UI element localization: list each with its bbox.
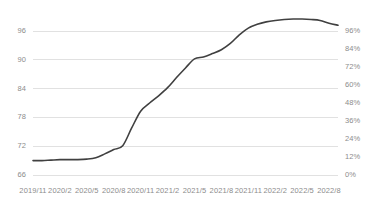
x-axis-tick-label: 2022/8 [317, 186, 341, 195]
y-axis-right-tick-label: 60% [345, 80, 373, 89]
x-axis-tick-label: 2020/11 [127, 186, 154, 195]
y-axis-right-tick-label: 36% [345, 116, 373, 125]
x-axis-tick-label: 2021/5 [183, 186, 207, 195]
x-axis-tick-label: 2022/2 [263, 186, 287, 195]
y-axis-left-tick-label: 96 [4, 26, 26, 35]
data-series-line [33, 19, 338, 161]
y-axis-right-tick-label: 84% [345, 44, 373, 53]
x-axis-tick-label: 2020/2 [48, 186, 72, 195]
y-axis-right-tick-label: 72% [345, 62, 373, 71]
y-axis-left-tick-label: 78 [4, 112, 26, 121]
y-axis-right-tick-label: 24% [345, 134, 373, 143]
x-axis-tick-label: 2021/11 [235, 186, 262, 195]
x-axis-tick-label: 2020/5 [75, 186, 99, 195]
grid-lines [33, 31, 338, 175]
y-axis-left-tick-label: 72 [4, 141, 26, 150]
chart-plot-area [0, 0, 373, 204]
y-axis-right-tick-label: 48% [345, 98, 373, 107]
y-axis-right-tick-label: 12% [345, 152, 373, 161]
y-axis-right-tick-label: 96% [345, 26, 373, 35]
x-axis-tick-label: 2019/11 [19, 186, 46, 195]
x-axis-tick-label: 2020/8 [102, 186, 126, 195]
x-axis-tick-label: 2021/8 [210, 186, 234, 195]
x-axis-tick-label: 2021/2 [156, 186, 180, 195]
y-axis-right-tick-label: 0% [345, 170, 373, 179]
line-chart: 969084787266 96%84%72%60%48%36%24%12%0% … [0, 0, 373, 204]
y-axis-left-tick-label: 66 [4, 170, 26, 179]
x-axis-tick-label: 2022/5 [290, 186, 314, 195]
y-axis-left-tick-label: 84 [4, 84, 26, 93]
y-axis-left-tick-label: 90 [4, 55, 26, 64]
